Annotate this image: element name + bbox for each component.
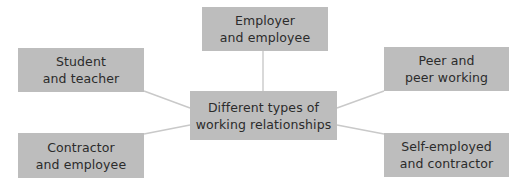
branch-node-employer-employee: Employer and employee bbox=[202, 7, 328, 51]
branch-node-line-1: Peer and bbox=[405, 52, 488, 69]
branch-node-line-1: Student bbox=[43, 53, 119, 70]
center-node-line-1: Different types of bbox=[196, 99, 332, 116]
center-node: Different types of working relationships bbox=[190, 91, 337, 140]
branch-node-line-2: and employee bbox=[36, 156, 126, 173]
connector-top-right bbox=[337, 91, 384, 108]
branch-node-line-2: peer working bbox=[405, 69, 488, 86]
branch-node-contractor-employee: Contractor and employee bbox=[18, 133, 144, 178]
branch-node-peer-working: Peer and peer working bbox=[384, 47, 509, 91]
branch-node-self-employed-contractor: Self-employed and contractor bbox=[384, 133, 509, 177]
branch-node-line-2: and employee bbox=[220, 29, 310, 46]
connector-top-left bbox=[144, 91, 190, 108]
branch-node-line-2: and teacher bbox=[43, 70, 119, 87]
branch-node-line-1: Employer bbox=[220, 12, 310, 29]
center-node-line-2: working relationships bbox=[196, 116, 332, 133]
branch-node-line-1: Self-employed bbox=[400, 138, 494, 155]
branch-node-line-2: and contractor bbox=[400, 155, 494, 172]
branch-node-student-teacher: Student and teacher bbox=[18, 48, 144, 92]
connector-bottom-right bbox=[337, 125, 384, 134]
connector-bottom-left bbox=[144, 125, 190, 134]
branch-node-line-1: Contractor bbox=[36, 139, 126, 156]
